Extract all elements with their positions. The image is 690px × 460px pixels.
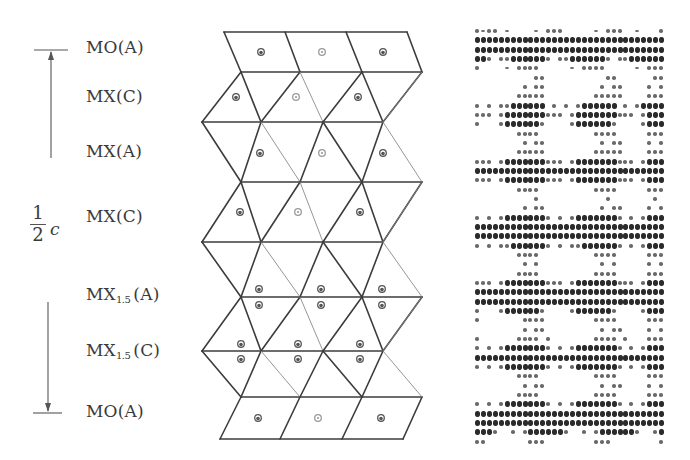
image-row (475, 140, 665, 146)
oxygen-site-atom-icon (295, 209, 302, 216)
image-row (475, 65, 665, 71)
image-row (475, 103, 665, 109)
polyhedron-edge (202, 297, 241, 351)
polyhedron-edge (280, 397, 300, 439)
metal-atom-icon (256, 302, 263, 309)
polyhedron-edge (407, 32, 422, 72)
layer-stacking: (C) (133, 340, 160, 360)
layer-stacking: (A) (118, 37, 144, 57)
polyhedron-edge (300, 351, 323, 397)
image-row (475, 168, 665, 174)
image-row (475, 345, 665, 351)
polyhedron-edge (323, 242, 362, 297)
polyhedron-edge (241, 182, 261, 242)
image-row (475, 429, 665, 435)
polyhedron-edge (342, 397, 362, 439)
faint-edge (383, 72, 422, 122)
metal-atom-icon (380, 49, 387, 56)
metal-atom-icon (238, 341, 245, 348)
metal-atom-icon (318, 302, 325, 309)
image-row (475, 327, 665, 333)
polyhedron-edge (241, 72, 261, 122)
polyhedron-edge (403, 397, 422, 439)
layer-stacking: (A) (133, 284, 159, 304)
image-row (475, 271, 665, 277)
image-row (475, 75, 665, 81)
polyhedron-edge (323, 122, 362, 182)
polyhedron-edge (346, 32, 362, 72)
oxygen-site-atom-icon (315, 415, 322, 422)
half-c-dimension-arrow (0, 0, 120, 460)
image-row (475, 47, 665, 53)
oxygen-site-atom-icon (319, 150, 326, 157)
image-row (475, 336, 665, 342)
polyhedron-edge (383, 242, 422, 297)
metal-atom-icon (295, 356, 302, 363)
metal-atom-icon (238, 356, 245, 363)
metal-atom-icon (318, 286, 325, 293)
polyhedron-edge (300, 182, 323, 242)
faint-edge (383, 182, 422, 242)
polyhedron-edge (261, 297, 300, 351)
polyhedron-edge (261, 122, 300, 182)
image-row (475, 243, 665, 249)
image-row (475, 355, 665, 361)
metal-atom-icon (255, 415, 262, 422)
polyhedron-edge (323, 351, 362, 397)
image-row (475, 317, 665, 323)
image-row (475, 187, 665, 193)
image-row (475, 420, 665, 426)
polyhedron-edge (202, 122, 241, 182)
oxygen-site-atom-icon (319, 49, 326, 56)
image-row (475, 308, 665, 314)
image-row (475, 439, 665, 445)
image-row (475, 392, 665, 398)
polyhedron-edge (202, 242, 241, 297)
polyhedron-edge (220, 397, 241, 439)
image-row (475, 280, 665, 286)
image-row (475, 364, 665, 370)
image-row (475, 224, 665, 230)
metal-atom-icon (357, 356, 364, 363)
image-row (475, 149, 665, 155)
image-row (475, 233, 665, 239)
image-row (475, 93, 665, 99)
image-row (475, 261, 665, 267)
simulated-hrtem-image (475, 28, 665, 448)
image-row (475, 177, 665, 183)
metal-atom-icon (380, 150, 387, 157)
image-row (475, 215, 665, 221)
image-row (475, 131, 665, 137)
metal-atom-icon (378, 415, 385, 422)
polyhedron-edge (285, 32, 300, 72)
up-arrowhead-icon (48, 51, 54, 60)
polyhedron-edge (362, 182, 383, 242)
image-row (475, 112, 665, 118)
metal-atom-icon (355, 94, 362, 101)
polyhedron-edge (261, 242, 300, 297)
polyhedron-edge (300, 72, 323, 122)
polyhedron-edge (362, 72, 383, 122)
polyhedron-edge (202, 182, 241, 242)
down-arrowhead-icon (45, 403, 51, 412)
metal-atom-icon (258, 49, 265, 56)
metal-atom-icon (257, 150, 264, 157)
image-row (475, 196, 665, 202)
image-row (475, 121, 665, 127)
image-row (475, 401, 665, 407)
image-row (475, 252, 665, 258)
polyhedron-edge (383, 122, 422, 182)
image-row (475, 28, 665, 34)
image-row (475, 84, 665, 90)
image-row (475, 56, 665, 62)
polyhedron-edge (323, 297, 362, 351)
metal-atom-icon (379, 302, 386, 309)
image-row (475, 205, 665, 211)
metal-atom-icon (357, 341, 364, 348)
metal-atom-icon (357, 209, 364, 216)
polyhedron-edge (202, 351, 241, 397)
image-row (475, 373, 665, 379)
polyhedron-edge (383, 351, 422, 397)
metal-atom-icon (379, 286, 386, 293)
image-row (475, 289, 665, 295)
